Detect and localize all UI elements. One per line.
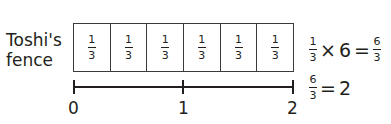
fence-cell: 13 [111, 24, 148, 71]
fence-cell: 13 [147, 24, 184, 71]
fraction-one-third: 13 [198, 34, 206, 61]
tick-label-2: 2 [287, 98, 298, 118]
fence-label-line2: fence [6, 50, 53, 70]
tick-1 [182, 80, 184, 94]
fraction-one-third: 13 [125, 34, 133, 61]
fence-cell: 13 [184, 24, 221, 71]
equation-multiply: 13 × 6 = 63 [309, 36, 381, 63]
fraction-one-third: 13 [271, 34, 279, 61]
fence-label-line1: Toshi's [6, 30, 62, 50]
tick-2 [292, 80, 294, 94]
tick-label-0: 0 [68, 98, 79, 118]
fence-cell: 13 [221, 24, 258, 71]
fraction-one-third: 13 [235, 34, 243, 61]
fence-cell: 13 [257, 24, 293, 71]
fence-cell: 13 [74, 24, 111, 71]
fraction-one-third: 13 [161, 34, 169, 61]
tick-label-1: 1 [178, 98, 189, 118]
equation-simplify: 63 = 2 [309, 74, 351, 101]
fence-strip: 13 13 13 13 13 13 [73, 23, 294, 72]
fraction-one-third: 13 [88, 34, 96, 61]
tick-0 [73, 80, 75, 94]
